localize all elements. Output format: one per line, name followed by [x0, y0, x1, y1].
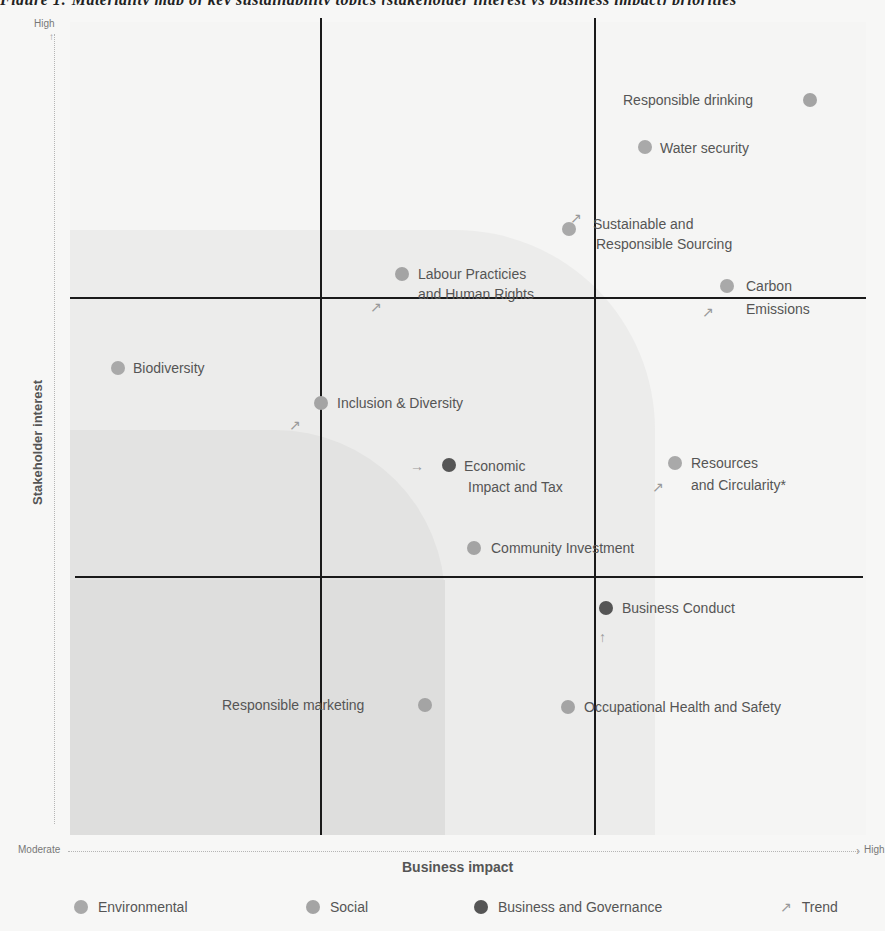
- point-label-carbon-line2: Emissions: [746, 299, 810, 319]
- point-label-community: Community Investment: [491, 538, 634, 558]
- point-responsible-marketing: [418, 698, 432, 712]
- point-resources-circularity: [668, 456, 682, 470]
- trend-right-icon: →: [410, 459, 424, 473]
- legend-item-social: Social: [306, 899, 368, 915]
- trend-icon: ↗: [780, 900, 792, 914]
- environmental-swatch-icon: [74, 900, 88, 914]
- point-label-resources-line2: and Circularity*: [691, 475, 786, 495]
- point-label-carbon-line1: Carbon: [746, 276, 792, 296]
- point-occupational-health-safety: [561, 700, 575, 714]
- figure-title-cropped: Figure 1: Materiality map of key sustain…: [0, 0, 884, 5]
- x-axis-title: Business impact: [402, 859, 513, 875]
- point-label-economic-line1: Economic: [464, 456, 525, 476]
- point-label-inclusion: Inclusion & Diversity: [337, 393, 463, 413]
- point-label-business-conduct: Business Conduct: [622, 598, 735, 618]
- point-label-responsible-marketing: Responsible marketing: [222, 695, 364, 715]
- trend-up-right-icon: ↗: [370, 300, 382, 314]
- point-water-security: [638, 140, 652, 154]
- point-carbon-emissions: [720, 279, 734, 293]
- legend-item-business-governance: Business and Governance: [474, 899, 662, 915]
- x-axis-line: [68, 851, 858, 852]
- legend-label-environmental: Environmental: [98, 899, 188, 915]
- x-axis-moderate-label: Moderate: [18, 844, 60, 855]
- x-axis-arrow-icon: ›: [856, 844, 860, 858]
- legend-item-trend: ↗ Trend: [780, 899, 838, 915]
- point-responsible-drinking: [803, 93, 817, 107]
- point-label-economic-line2: Impact and Tax: [468, 477, 563, 497]
- y-axis-line: [54, 34, 55, 824]
- point-label-responsible-drinking: Responsible drinking: [623, 90, 753, 110]
- point-label-resources-line1: Resources: [691, 453, 758, 473]
- trend-up-right-icon: ↗: [289, 418, 301, 432]
- legend-item-environmental: Environmental: [74, 899, 188, 915]
- point-label-water-security: Water security: [660, 138, 749, 158]
- trend-up-icon: ↑: [599, 630, 606, 644]
- legend-label-social: Social: [330, 899, 368, 915]
- point-label-ohs: Occupational Health and Safety: [584, 697, 781, 717]
- social-swatch-icon: [306, 900, 320, 914]
- legend-label-trend: Trend: [802, 899, 838, 915]
- business-governance-swatch-icon: [474, 900, 488, 914]
- point-labour-practices: [395, 267, 409, 281]
- trend-up-right-icon: ↗: [652, 480, 664, 494]
- point-label-biodiversity: Biodiversity: [133, 358, 205, 378]
- legend-label-business-governance: Business and Governance: [498, 899, 662, 915]
- point-biodiversity: [111, 361, 125, 375]
- point-label-labour-line1: Labour Practicies: [418, 264, 526, 284]
- x-axis-high-label: High: [864, 844, 885, 855]
- point-inclusion-diversity: [314, 396, 328, 410]
- point-label-sourcing-line2: Responsible Sourcing: [596, 234, 732, 254]
- point-community-investment: [467, 541, 481, 555]
- y-axis-arrow-icon: ↑: [49, 30, 54, 44]
- y-axis-title: Stakeholder interest: [30, 380, 45, 505]
- quadrant-line-horizontal-2: [75, 576, 863, 578]
- y-axis-high-label: High: [34, 18, 55, 29]
- trend-up-right-icon: ↗: [702, 305, 714, 319]
- point-economic-impact: [442, 458, 456, 472]
- point-label-labour-line2: and Human Rights: [418, 284, 534, 304]
- point-label-sourcing-line1: Sustainable and: [593, 214, 693, 234]
- point-sustainable-sourcing: [562, 222, 576, 236]
- point-business-conduct: [599, 601, 613, 615]
